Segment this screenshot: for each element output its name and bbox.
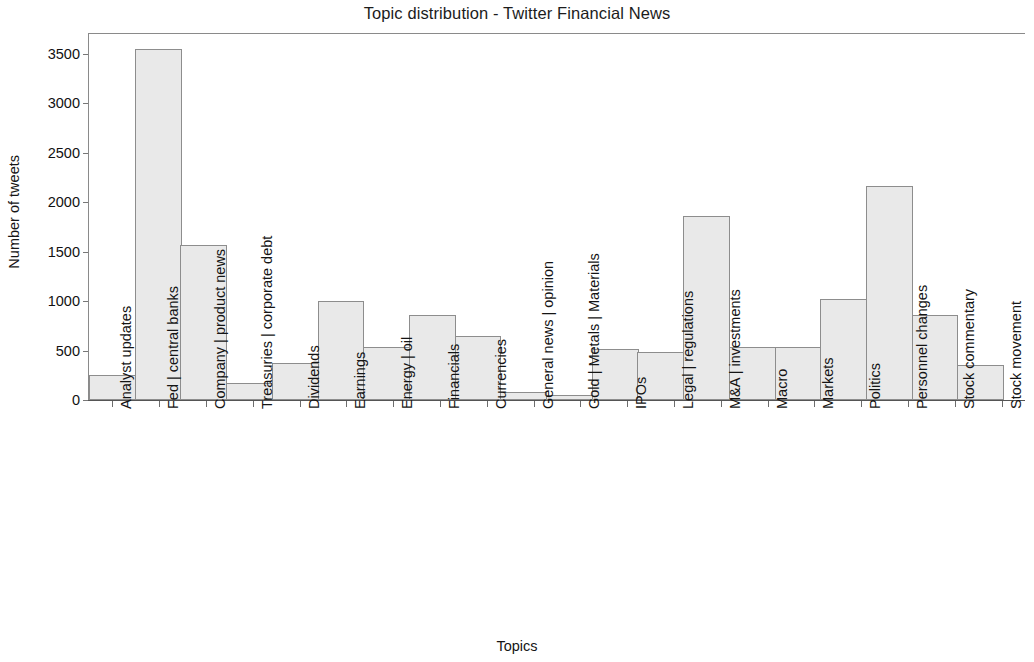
x-tick-label: Gold | Metals | Materials bbox=[586, 253, 602, 409]
x-tick-mark bbox=[440, 401, 441, 407]
x-tick-label: General news | opinion bbox=[540, 261, 556, 409]
x-tick-label: Treasuries | corporate debt bbox=[259, 236, 275, 409]
x-tick-label: M&A | investments bbox=[727, 289, 743, 409]
x-axis-tick-labels: Analyst updatesFed | central banksCompan… bbox=[88, 409, 1025, 624]
x-tick-mark bbox=[300, 401, 301, 407]
x-tick-mark bbox=[814, 401, 815, 407]
x-tick-mark bbox=[487, 401, 488, 407]
x-tick-label: Fed | central banks bbox=[165, 286, 181, 409]
y-tick-mark bbox=[83, 54, 88, 55]
y-tick-mark bbox=[83, 252, 88, 253]
x-tick-mark bbox=[206, 401, 207, 407]
y-tick-label: 1000 bbox=[48, 293, 80, 309]
y-tick-mark bbox=[83, 400, 88, 401]
y-tick-label: 2000 bbox=[48, 194, 80, 210]
x-tick-label: Stock commentary bbox=[961, 289, 977, 409]
y-tick-mark bbox=[83, 202, 88, 203]
x-tick-label: Company | product news bbox=[212, 249, 228, 409]
x-tick-mark bbox=[534, 401, 535, 407]
y-tick-label: 500 bbox=[56, 343, 80, 359]
x-tick-label: Earnings bbox=[352, 352, 368, 409]
x-tick-mark bbox=[1002, 401, 1003, 407]
y-tick-mark bbox=[83, 301, 88, 302]
x-tick-label: Analyst updates bbox=[118, 306, 134, 409]
x-tick-mark bbox=[346, 401, 347, 407]
x-tick-mark bbox=[580, 401, 581, 407]
x-tick-label: Politics bbox=[867, 363, 883, 409]
x-tick-mark bbox=[627, 401, 628, 407]
x-tick-label: Energy | oil bbox=[399, 337, 415, 409]
y-tick-mark bbox=[83, 153, 88, 154]
x-tick-label: IPOs bbox=[633, 377, 649, 409]
x-tick-mark bbox=[253, 401, 254, 407]
x-tick-label: Stock movement bbox=[1008, 301, 1024, 409]
x-tick-label: Currencies bbox=[493, 339, 509, 409]
plot-area: 0500100015002000250030003500 bbox=[88, 33, 1025, 401]
x-tick-label: Financials bbox=[446, 344, 462, 409]
x-tick-label: Markets bbox=[820, 357, 836, 409]
y-tick-label: 0 bbox=[72, 392, 80, 408]
y-tick-label: 3500 bbox=[48, 46, 80, 62]
x-tick-label: Dividends bbox=[306, 345, 322, 409]
x-tick-mark bbox=[721, 401, 722, 407]
y-tick-mark bbox=[83, 103, 88, 104]
x-tick-mark bbox=[393, 401, 394, 407]
y-tick-label: 3000 bbox=[48, 95, 80, 111]
chart-title: Topic distribution - Twitter Financial N… bbox=[0, 4, 1034, 23]
x-tick-mark bbox=[159, 401, 160, 407]
x-tick-label: Macro bbox=[774, 369, 790, 409]
x-axis-line bbox=[88, 400, 1025, 401]
x-tick-mark bbox=[674, 401, 675, 407]
x-tick-label: Legal | regulations bbox=[680, 291, 696, 409]
x-axis-title: Topics bbox=[0, 638, 1034, 654]
x-tick-mark bbox=[861, 401, 862, 407]
x-tick-mark bbox=[112, 401, 113, 407]
y-tick-mark bbox=[83, 351, 88, 352]
y-tick-label: 2500 bbox=[48, 145, 80, 161]
bar-series bbox=[89, 34, 1025, 400]
x-tick-mark bbox=[908, 401, 909, 407]
y-axis-title: Number of tweets bbox=[6, 155, 22, 269]
y-tick-label: 1500 bbox=[48, 244, 80, 260]
x-tick-mark bbox=[955, 401, 956, 407]
chart-figure: Topic distribution - Twitter Financial N… bbox=[0, 0, 1034, 662]
x-tick-label: Personnel changes bbox=[914, 285, 930, 409]
x-tick-mark bbox=[768, 401, 769, 407]
